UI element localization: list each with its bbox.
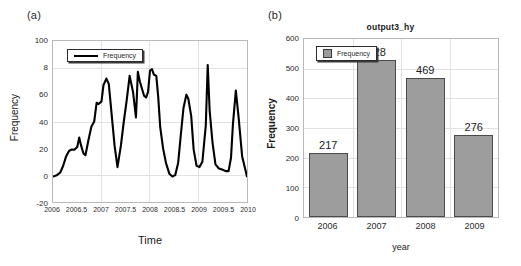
y-tick-label: 200 bbox=[286, 154, 299, 163]
gridline-vertical bbox=[401, 39, 402, 217]
y-tick-label: 8 bbox=[44, 63, 48, 72]
panel-b-y-axis-title: Frequency bbox=[266, 84, 277, 164]
panel-a-x-axis-title: Time bbox=[52, 234, 248, 246]
x-tick-label: 2008.5 bbox=[164, 206, 185, 213]
panel-b-bar-chart: (b) output3_hy 600 500 400 300 200 100 0… bbox=[260, 0, 521, 266]
panel-b-x-axis-title: year bbox=[303, 242, 499, 252]
y-tick-label: 60 bbox=[39, 90, 48, 99]
x-tick-label: 2008 bbox=[142, 206, 158, 213]
legend-label: Frequency bbox=[103, 52, 136, 59]
legend-swatch-icon bbox=[323, 49, 332, 58]
panel-a-line-series bbox=[53, 41, 247, 202]
y-tick-label: 500 bbox=[286, 64, 299, 73]
y-tick-label: 600 bbox=[286, 34, 299, 43]
panel-b-plot-area: 217528469276 Frequency bbox=[303, 38, 499, 218]
panel-a-y-axis-title: Frequency bbox=[9, 78, 20, 158]
x-tick-label: 2006 bbox=[317, 221, 337, 231]
bar-2008 bbox=[406, 78, 445, 217]
x-tick-label: 2007.5 bbox=[115, 206, 136, 213]
x-tick-label: 2006 bbox=[44, 206, 60, 213]
bar-2007 bbox=[357, 60, 396, 217]
gridline-vertical bbox=[353, 39, 354, 217]
panel-a-tag: (a) bbox=[27, 9, 41, 21]
gridline-vertical bbox=[450, 39, 451, 217]
figure: (a) 100 8 60 40 20 0 -20 Frequency bbox=[0, 0, 521, 266]
panel-a-y-ticks: 100 8 60 40 20 0 -20 bbox=[18, 40, 48, 203]
panel-b-tag: (b) bbox=[268, 9, 282, 21]
x-tick-label: 2007 bbox=[93, 206, 109, 213]
panel-b-title: output3_hy bbox=[260, 22, 521, 32]
y-tick-label: 300 bbox=[286, 124, 299, 133]
x-tick-label: 2010 bbox=[240, 206, 256, 213]
y-tick-label: 400 bbox=[286, 93, 299, 102]
y-tick-label: 40 bbox=[39, 117, 48, 126]
bar-value-label: 217 bbox=[319, 139, 337, 151]
y-tick-label: 100 bbox=[286, 183, 299, 192]
bar-2006 bbox=[309, 153, 348, 217]
y-tick-label: 0 bbox=[44, 171, 48, 180]
x-tick-label: 2007 bbox=[366, 221, 386, 231]
panel-b-legend: Frequency bbox=[316, 46, 377, 61]
y-tick-label: 20 bbox=[39, 144, 48, 153]
bar-value-label: 469 bbox=[416, 64, 434, 76]
panel-a-line-chart: (a) 100 8 60 40 20 0 -20 Frequency bbox=[0, 0, 260, 266]
bar-2009 bbox=[454, 135, 493, 217]
bar-value-label: 276 bbox=[465, 121, 483, 133]
x-tick-label: 2009 bbox=[464, 221, 484, 231]
y-tick-label: 100 bbox=[35, 36, 48, 45]
x-tick-label: 2008 bbox=[415, 221, 435, 231]
panel-a-legend: Frequency bbox=[67, 49, 143, 62]
x-tick-label: 2009 bbox=[191, 206, 207, 213]
panel-a-plot-area: Frequency bbox=[52, 40, 248, 203]
y-tick-label: 0 bbox=[295, 214, 299, 223]
x-tick-label: 2006.5 bbox=[66, 206, 87, 213]
legend-label: Frequency bbox=[337, 50, 370, 57]
legend-line-icon bbox=[74, 55, 98, 57]
x-tick-label: 2009.5 bbox=[213, 206, 234, 213]
